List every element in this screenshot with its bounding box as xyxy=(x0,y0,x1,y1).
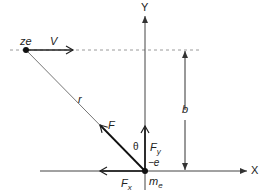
target-label: me xyxy=(149,176,163,190)
force-x-main: F xyxy=(121,177,128,189)
target-sub: e xyxy=(158,181,162,190)
force-label: F xyxy=(108,120,115,131)
charge-label: −e xyxy=(148,158,159,168)
force-y-main: F xyxy=(150,141,157,153)
force-x-sub: x xyxy=(128,183,132,192)
diagram-graphics xyxy=(0,0,271,195)
particle-dot xyxy=(23,47,29,53)
force-x-label: Fx xyxy=(121,178,132,192)
target-main: m xyxy=(149,175,158,187)
scattering-diagram: Y X ze V r b F θ Fy −e Fx me xyxy=(0,0,271,195)
distance-label: r xyxy=(78,94,82,105)
particle-label: ze xyxy=(20,36,32,47)
force-y-sub: y xyxy=(157,147,161,156)
impact-parameter-label: b xyxy=(182,104,188,115)
angle-theta-label: θ xyxy=(133,142,139,152)
y-axis-label: Y xyxy=(141,2,148,13)
target-dot xyxy=(142,168,148,174)
force-y-label: Fy xyxy=(150,142,161,156)
x-axis-label: X xyxy=(251,165,258,176)
velocity-label: V xyxy=(50,36,57,47)
